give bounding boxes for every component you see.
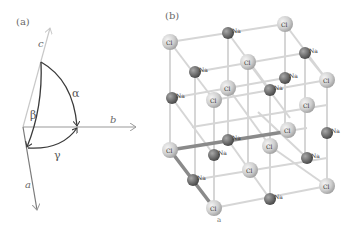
svg-text:Cl: Cl: [281, 21, 288, 28]
svg-text:Na: Na: [218, 149, 227, 156]
b-axis-label: b: [110, 114, 116, 125]
svg-text:Na: Na: [309, 47, 318, 54]
panel-a-label: (a): [16, 16, 30, 27]
cl-atom: Cl: [162, 142, 178, 158]
cl-atom: Cl: [206, 200, 222, 216]
na-atom: Na: [222, 27, 241, 39]
cl-atom: Cl: [162, 34, 178, 50]
beta-label: β: [30, 109, 36, 122]
svg-text:Cl: Cl: [244, 59, 251, 66]
cl-atom: Cl: [262, 138, 278, 154]
svg-text:Cl: Cl: [166, 147, 173, 154]
svg-text:Na: Na: [232, 134, 241, 141]
gamma-arc: [28, 128, 77, 148]
cl-atom: Cl: [206, 92, 222, 108]
svg-text:Na: Na: [197, 174, 206, 181]
na-atom: Na: [301, 152, 320, 164]
unit-cell-angles-diagram: (a) c b a α β γ: [0, 0, 150, 233]
svg-text:Cl: Cl: [323, 77, 330, 84]
na-atom: Na: [321, 127, 340, 139]
cl-atom: Cl: [299, 97, 315, 113]
c-axis-label: c: [38, 38, 44, 49]
svg-text:Na: Na: [176, 92, 185, 99]
na-atom: Na: [208, 149, 227, 161]
svg-text:Na: Na: [331, 127, 340, 134]
svg-text:Cl: Cl: [266, 143, 273, 150]
cl-atom: Cl: [220, 80, 236, 96]
svg-text:Cl: Cl: [224, 85, 231, 92]
cl-atom: Cl: [280, 122, 296, 138]
cl-atom: Cl: [242, 162, 258, 178]
svg-text:Na: Na: [232, 27, 241, 34]
svg-text:Cl: Cl: [303, 102, 310, 109]
svg-text:Na: Na: [311, 152, 320, 159]
svg-text:Cl: Cl: [166, 39, 173, 46]
na-atom: Na: [264, 84, 283, 96]
svg-text:Cl: Cl: [246, 167, 253, 174]
na-atom: Na: [166, 92, 185, 104]
svg-text:Cl: Cl: [323, 183, 330, 190]
svg-text:Na: Na: [274, 193, 283, 200]
c-axis: [23, 28, 50, 127]
na-atom: Na: [222, 134, 241, 146]
cl-atom: Cl: [319, 178, 335, 194]
na-atom: Na: [189, 66, 208, 78]
a-axis-label: a: [25, 179, 31, 190]
cl-atom: Cl: [240, 54, 256, 70]
gamma-label: γ: [54, 149, 61, 162]
svg-text:Na: Na: [274, 84, 283, 91]
svg-text:Na: Na: [199, 66, 208, 73]
panel-a-unit-cell-angles: (a) c b a α β γ: [0, 0, 150, 233]
na-atom: Na: [299, 47, 318, 59]
na-atoms: Na Na Na Na Na Na Na Na Na Na Na Na: [166, 27, 340, 205]
alpha-label: α: [72, 87, 80, 100]
cl-atom: Cl: [277, 16, 293, 32]
na-atom: Na: [279, 72, 298, 84]
lattice-a-axis-label: a: [217, 216, 221, 224]
na-atom: Na: [187, 174, 206, 186]
svg-text:Cl: Cl: [284, 127, 291, 134]
cl-atom: Cl: [319, 72, 335, 88]
panel-b-label: (b): [165, 10, 179, 21]
svg-text:Na: Na: [289, 72, 298, 79]
panel-b-nacl-lattice: (b): [150, 0, 352, 233]
svg-text:Cl: Cl: [210, 205, 217, 212]
na-atom: Na: [264, 193, 283, 205]
svg-text:Cl: Cl: [210, 97, 217, 104]
nacl-crystal-lattice: (b): [150, 0, 352, 233]
